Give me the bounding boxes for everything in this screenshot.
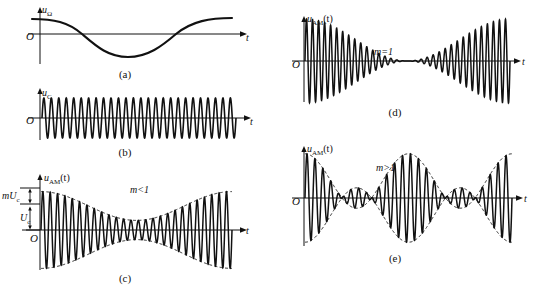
panel-c: uAM(t) t O mUc Uc m<1 <box>10 170 256 274</box>
panel-d: uAM(t) t O m=1 <box>290 14 540 106</box>
am-waveform <box>41 192 232 269</box>
carrier-waveform <box>42 98 236 138</box>
panel-c-origin: O <box>30 232 38 244</box>
panel-d-plot <box>290 14 540 106</box>
panel-b-caption: (b) <box>100 146 150 158</box>
panel-e-modulation-note: m>1 <box>376 162 395 173</box>
panel-d-y-label: uAM(t) <box>307 13 333 27</box>
panel-e-y-label: uAM(t) <box>307 143 333 157</box>
panel-c-modulation-note: m<1 <box>130 184 149 195</box>
am-modulation-figure: uΩ t O (a) uC t O (b) <box>0 0 552 293</box>
panel-c-amp-label-2: Uc <box>20 212 30 226</box>
panel-a: uΩ t O <box>24 6 252 68</box>
panel-e-origin: O <box>292 195 300 207</box>
panel-a-plot <box>24 6 252 68</box>
x-axis-arrow <box>514 58 521 64</box>
panel-d-x-label: t <box>522 56 525 67</box>
panel-e: uAM(t) t O m>1 <box>290 142 542 250</box>
panel-a-caption: (a) <box>100 68 150 80</box>
panel-d-origin: O <box>292 58 300 70</box>
am-waveform <box>305 19 510 103</box>
panel-b-y-label: uC <box>42 87 52 101</box>
panel-c-y-label: uAM(t) <box>44 172 70 186</box>
x-axis-arrow <box>516 195 523 201</box>
panel-a-y-label: uΩ <box>42 4 52 18</box>
panel-b-plot <box>24 86 256 144</box>
panel-c-caption: (c) <box>100 272 150 284</box>
panel-e-caption: (e) <box>370 252 420 264</box>
y-axis-arrow <box>301 146 306 152</box>
panel-c-amp-label-1: mUc <box>2 190 20 204</box>
panel-b-x-label: t <box>250 116 253 127</box>
panel-d-caption: (d) <box>370 106 420 118</box>
panel-e-x-label: t <box>524 193 527 204</box>
panel-b: uC t O <box>24 86 256 144</box>
modulating-signal-curve <box>32 18 232 57</box>
panel-a-x-label: t <box>246 32 249 43</box>
panel-d-modulation-note: m=1 <box>374 46 393 57</box>
panel-c-x-label: t <box>246 225 249 236</box>
panel-a-origin: O <box>26 30 34 42</box>
panel-e-plot <box>290 142 542 250</box>
panel-b-origin: O <box>26 114 34 126</box>
y-axis-arrow <box>37 174 42 180</box>
